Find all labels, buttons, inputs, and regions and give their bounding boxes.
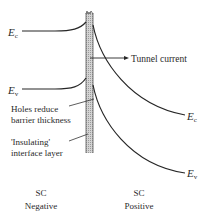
right-title-line1: SC (133, 188, 144, 198)
right-title-line2: Positive (124, 201, 153, 211)
insulating-label-line2: interface layer (11, 148, 63, 158)
right-ec-sub: c (194, 116, 197, 124)
right-ev-sub: v (194, 173, 198, 181)
tunnel-current-label: Tunnel current (131, 54, 187, 64)
left-ev-sub: v (15, 90, 19, 98)
left-valence-band-curve (22, 78, 86, 89)
holes-label-line2: barrier thickness (11, 115, 71, 125)
barrier-fill (86, 13, 93, 153)
left-ev-label: Ev (7, 84, 19, 98)
tunnel-current-arrow (90, 56, 129, 60)
tunnel-arrow-head-icon (124, 56, 129, 60)
band-diagram: Ec Ev Ec Ev Tunnel current Holes reduce … (0, 0, 209, 222)
left-title-line2: Negative (25, 201, 57, 211)
insulating-barrier (86, 11, 93, 153)
right-valence-band-curve (93, 85, 185, 173)
right-ec-label: Ec (186, 110, 197, 124)
left-conduction-band-curve (22, 22, 86, 31)
left-title-line1: SC (35, 188, 46, 198)
left-ec-sub: c (15, 32, 18, 40)
left-ec-label: Ec (7, 26, 18, 40)
insulating-leader-line (69, 134, 88, 141)
right-conduction-band-curve (93, 25, 185, 115)
holes-label-line1: Holes reduce (11, 104, 58, 114)
insulating-label-line1: 'Insulating' (11, 137, 51, 147)
right-ev-label: Ev (186, 167, 198, 181)
